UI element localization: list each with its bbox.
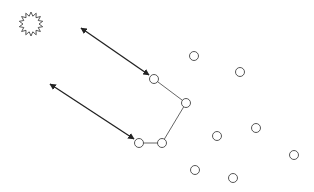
node-n4 [182,99,191,108]
node-n9 [290,151,299,160]
double-arrow-1 [81,28,149,75]
nodes [135,52,299,183]
node-n8 [158,139,167,148]
node-n3 [150,75,159,84]
connector-path [139,79,186,143]
node-n6 [213,132,222,141]
arrows [50,28,149,139]
node-path [139,79,186,143]
starburst-shape [19,12,42,36]
node-n2 [236,68,245,77]
double-arrow-2 [50,84,134,139]
node-n5 [252,124,261,133]
node-n10 [191,166,200,175]
node-n11 [229,174,238,183]
starburst-icon [19,12,42,36]
diagram-canvas [0,0,314,192]
node-n1 [190,52,199,61]
node-n7 [135,139,144,148]
